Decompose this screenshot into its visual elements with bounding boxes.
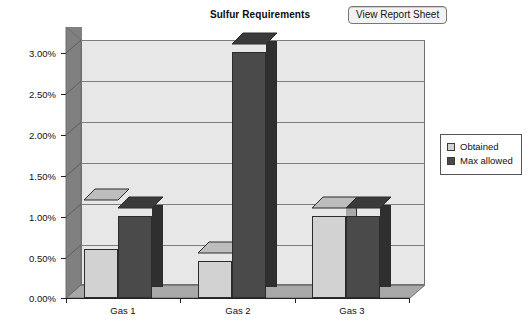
legend-swatch-icon (447, 143, 455, 151)
bar-gas1-max-allowed[interactable] (118, 216, 152, 298)
chart-screenshot: Sulfur Requirements View Report Sheet (0, 0, 532, 327)
bar-front-face (312, 216, 346, 298)
bar-front-face (232, 52, 266, 298)
bar-front-face (346, 216, 380, 298)
bar-gas3-max-allowed[interactable] (346, 216, 380, 298)
y-axis-label: 1.50% (4, 171, 56, 182)
y-axis-label: 3.00% (4, 48, 56, 59)
bar-top-face (232, 32, 278, 52)
legend-item-max-allowed[interactable]: Max allowed (447, 154, 513, 168)
x-axis-label: Gas 2 (203, 305, 273, 316)
x-axis-line (66, 298, 410, 299)
y-axis-label: 1.00% (4, 212, 56, 223)
bar-front-face (84, 249, 118, 298)
x-axis-label: Gas 3 (317, 305, 387, 316)
y-axis-label: 0.00% (4, 293, 56, 304)
y-axis-label: 2.50% (4, 89, 56, 100)
bar-gas2-max-allowed[interactable] (232, 52, 266, 298)
bar-side-face (380, 205, 391, 287)
bar-front-face (198, 261, 232, 298)
bar-top-face (118, 196, 164, 216)
bar-front-face (118, 216, 152, 298)
legend-label: Max allowed (460, 154, 513, 168)
bar-gas1-obtained[interactable] (84, 249, 118, 298)
bar-top-face (346, 196, 392, 216)
bar-gas2-obtained[interactable] (198, 261, 232, 298)
chart-legend: Obtained Max allowed (440, 134, 522, 175)
legend-item-obtained[interactable]: Obtained (447, 140, 513, 154)
bar-side-face (266, 41, 277, 287)
x-axis-label: Gas 1 (88, 305, 158, 316)
bar-gas3-obtained[interactable] (312, 216, 346, 298)
legend-swatch-icon (447, 157, 455, 165)
y-axis-label: 2.00% (4, 130, 56, 141)
bar-side-face (152, 205, 163, 287)
y-axis-label: 0.50% (4, 253, 56, 264)
legend-label: Obtained (460, 140, 499, 154)
